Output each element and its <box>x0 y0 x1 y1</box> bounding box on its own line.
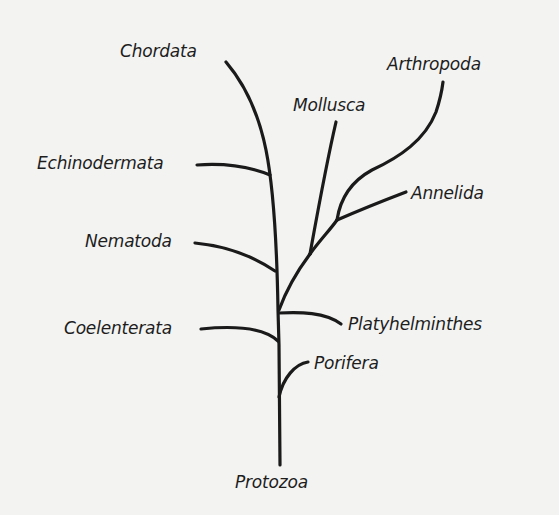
label-echinodermata: Echinodermata <box>37 155 163 172</box>
branch-nematoda <box>195 243 275 271</box>
label-arthropoda: Arthropoda <box>387 56 481 73</box>
label-nematoda: Nematoda <box>85 233 172 250</box>
branch-platyhelminthes <box>279 313 341 324</box>
branch-echinodermata <box>197 164 270 175</box>
phylogenetic-tree-diagram: Chordata Arthropoda Mollusca Echinoderma… <box>0 0 559 515</box>
label-mollusca: Mollusca <box>293 97 365 114</box>
branch-annelida <box>337 192 406 220</box>
label-protozoa: Protozoa <box>235 474 308 491</box>
trunk-chordata-line <box>226 62 280 465</box>
label-chordata: Chordata <box>120 43 197 60</box>
label-porifera: Porifera <box>314 355 379 372</box>
branch-coelenterata <box>201 327 278 341</box>
branch-right-stem <box>279 254 310 310</box>
branch-mollusca <box>310 122 336 254</box>
tree-lines <box>0 0 559 515</box>
label-coelenterata: Coelenterata <box>64 320 172 337</box>
label-annelida: Annelida <box>411 185 484 202</box>
label-platyhelminthes: Platyhelminthes <box>348 316 482 333</box>
branch-porifera <box>279 362 308 397</box>
